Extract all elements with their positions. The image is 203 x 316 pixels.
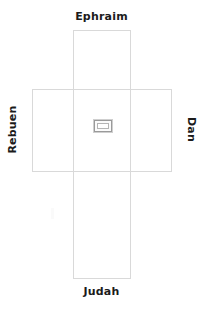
label-ephraim: Ephraim xyxy=(0,11,203,22)
label-dan: Dan xyxy=(186,100,197,160)
label-rebuen: Rebuen xyxy=(7,100,18,160)
center-marker-inner xyxy=(97,123,109,129)
diagram-canvas: Ephraim Judah Rebuen Dan xyxy=(0,0,203,316)
label-judah: Judah xyxy=(0,286,203,297)
center-marker xyxy=(94,120,112,132)
faint-artifact xyxy=(51,208,54,219)
